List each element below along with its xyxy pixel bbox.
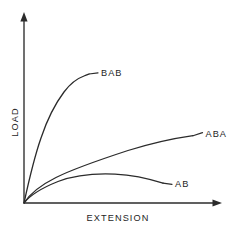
curve-ab: [24, 174, 163, 203]
figure-root: BAB ABA AB LOAD EXTENSION: [0, 0, 237, 234]
curve-aba: [24, 136, 193, 203]
leader-line-ab: [163, 183, 172, 184]
leader-line-bab: [89, 73, 98, 74]
y-axis-arrowhead: [20, 12, 27, 22]
x-axis-arrowhead: [213, 199, 223, 206]
load-extension-plot: BAB ABA AB LOAD EXTENSION: [0, 0, 237, 234]
leader-line-aba: [193, 133, 203, 136]
curve-label-ab: AB: [175, 179, 189, 189]
curve-label-aba: ABA: [206, 129, 227, 139]
y-axis-label: LOAD: [10, 107, 20, 136]
curve-label-bab: BAB: [101, 68, 122, 78]
x-axis-label: EXTENSION: [87, 213, 150, 223]
curve-bab: [24, 74, 89, 203]
